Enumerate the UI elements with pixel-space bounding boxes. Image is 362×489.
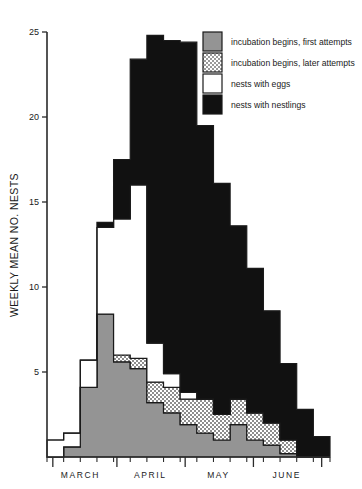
legend-swatch	[203, 53, 222, 72]
y-tick-label: 5	[34, 367, 39, 377]
y-tick-label: 15	[29, 197, 39, 207]
y-tick-label: 20	[29, 112, 39, 122]
legend-swatch	[203, 74, 222, 93]
y-axis-label: WEEKLY MEAN NO. NESTS	[8, 173, 20, 317]
legend-label: nests with nestlings	[231, 100, 306, 110]
x-month-label: MAY	[207, 470, 230, 480]
y-tick-label: 25	[29, 27, 39, 37]
x-month-label: MARCH	[61, 470, 100, 480]
legend-swatch	[203, 32, 222, 51]
x-month-label: APRIL	[134, 470, 167, 480]
chart-figure: 510152025MARCHAPRILMAYJUNE incubation be…	[0, 0, 362, 489]
legend-swatch	[203, 95, 222, 114]
legend-label: incubation begins, later attempts	[231, 58, 355, 68]
x-month-label: JUNE	[272, 470, 301, 480]
legend-label: nests with eggs	[231, 79, 290, 89]
y-tick-label: 10	[29, 282, 39, 292]
legend-label: incubation begins, first attempts	[231, 37, 352, 47]
nest-phenology-chart: 510152025MARCHAPRILMAYJUNE incubation be…	[0, 0, 362, 489]
